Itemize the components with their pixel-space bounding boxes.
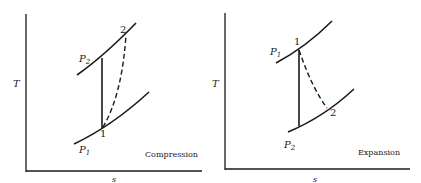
expansion-upper-isobar-label: P1	[269, 46, 281, 59]
ts-diagrams: 2 P2 1 P1 T s Compression 1 P1 2 P2 T s …	[0, 0, 421, 183]
expansion-lower-isobar-label: P2	[283, 139, 296, 152]
compression-y-axis-label: T	[13, 78, 21, 89]
expansion-title: Expansion	[358, 148, 400, 157]
expansion-x-axis-label: s	[313, 175, 317, 183]
compression-upper-isobar	[77, 23, 136, 75]
expansion-upper-isobar	[276, 21, 332, 63]
expansion-panel: 1 P1 2 P2 T s Expansion	[212, 13, 410, 183]
compression-panel: 2 P2 1 P1 T s Compression	[13, 14, 202, 183]
compression-state-1-label: 1	[100, 128, 106, 139]
compression-lower-isobar-label: P1	[78, 144, 90, 157]
compression-x-axis-label: s	[112, 175, 116, 183]
compression-lower-isobar	[74, 92, 149, 144]
expansion-state-1-label: 1	[294, 36, 300, 47]
expansion-y-axis-label: T	[212, 78, 220, 89]
expansion-actual-process	[299, 50, 327, 108]
expansion-state-2-label: 2	[330, 107, 336, 118]
compression-title: Compression	[145, 150, 198, 159]
compression-state-2-label: 2	[120, 24, 126, 35]
compression-upper-isobar-label: P2	[78, 53, 91, 66]
expansion-lower-isobar	[288, 89, 354, 132]
